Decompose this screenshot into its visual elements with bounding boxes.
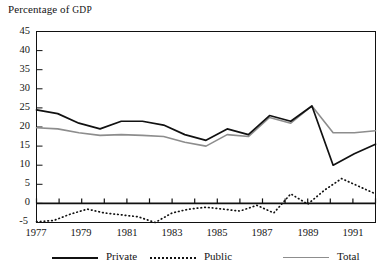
- ytick-label: 30: [8, 82, 30, 93]
- legend-label-private: Private: [106, 250, 137, 262]
- chart-figure: Percentage of GDP: [0, 0, 392, 277]
- ytick-label: 40: [8, 44, 30, 55]
- xtick-label: 1979: [61, 227, 101, 238]
- legend-swatch-private-icon: [52, 257, 98, 263]
- xtick-label: 1981: [107, 227, 147, 238]
- ytick-label: 10: [8, 158, 30, 169]
- legend-swatch-public-icon: [150, 257, 196, 263]
- legend-label-total: Total: [337, 250, 359, 262]
- xtick-label: 1977: [16, 227, 56, 238]
- chart-title-main: Percentage of: [8, 3, 72, 15]
- ytick-label: -5: [6, 215, 28, 226]
- chart-title: Percentage of GDP: [8, 3, 92, 15]
- ytick-label: 15: [8, 139, 30, 150]
- chart-title-smallcaps: GDP: [72, 5, 92, 15]
- ytick-label: 45: [8, 25, 30, 36]
- chart-legend: Private Public Total: [0, 250, 392, 272]
- xtick-label: 1987: [242, 227, 282, 238]
- legend-label-public: Public: [204, 250, 232, 262]
- legend-swatch-total-icon: [283, 257, 329, 262]
- plot-frame: [37, 32, 376, 223]
- xtick-label: 1983: [152, 227, 192, 238]
- xtick-label: 1989: [288, 227, 328, 238]
- ytick-label: 35: [8, 63, 30, 74]
- ytick-label: 20: [8, 120, 30, 131]
- ytick-label: 5: [8, 177, 30, 188]
- xtick-label: 1991: [333, 227, 373, 238]
- ytick-label: 0: [8, 196, 30, 207]
- xtick-label: 1985: [197, 227, 237, 238]
- ytick-label: 25: [8, 101, 30, 112]
